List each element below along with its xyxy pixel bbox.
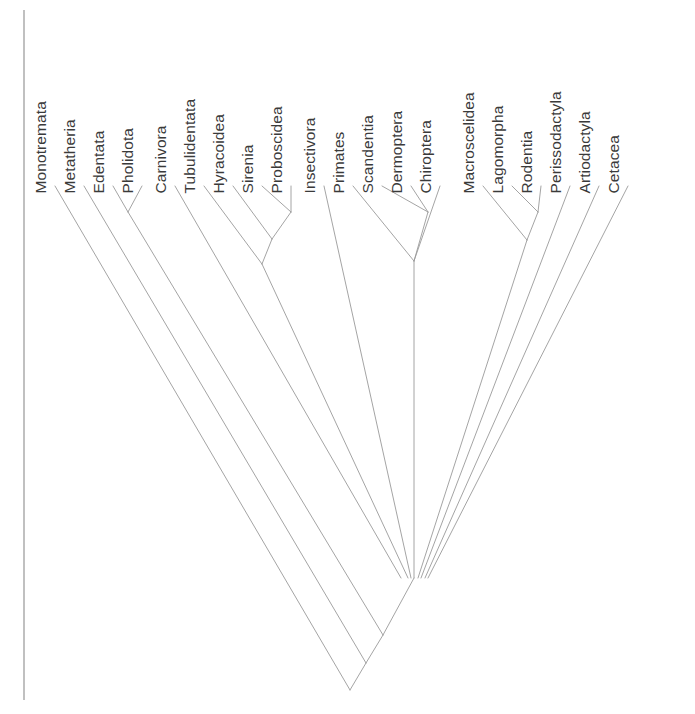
phylogenetic-tree-figure: MonotremataMetatheriaEdentataPholidotaCa… [0, 0, 695, 714]
taxon-label-chiroptera: Chiroptera [418, 120, 434, 193]
taxon-label-rodentia: Rodentia [519, 131, 535, 194]
taxon-label-sirenia: Sirenia [240, 145, 256, 194]
taxon-label-artiodactyla: Artiodactyla [577, 111, 593, 193]
taxon-label-proboscidea: Proboscidea [269, 106, 285, 193]
taxon-label-edentata: Edentata [91, 131, 107, 194]
taxon-label-dermoptera: Dermoptera [389, 111, 405, 194]
taxon-label-primates: Primates [331, 132, 347, 194]
taxon-label-carnivora: Carnivora [153, 125, 169, 193]
taxon-label-metatheria: Metatheria [62, 119, 78, 193]
taxon-label-macroscelidea: Macroscelidea [461, 92, 477, 193]
taxon-label-insectivora: Insectivora [302, 117, 318, 193]
taxon-label-lagomorpha: Lagomorpha [490, 105, 506, 193]
taxon-label-perissodactyla: Perissodactyla [548, 91, 564, 193]
taxon-label-monotremata: Monotremata [33, 101, 49, 193]
taxon-labels-layer: MonotremataMetatheriaEdentataPholidotaCa… [0, 0, 695, 714]
taxon-label-pholidota: Pholidota [120, 128, 136, 194]
taxon-label-scandentia: Scandentia [360, 115, 376, 194]
taxon-label-cetacea: Cetacea [606, 135, 622, 193]
taxon-label-hyracoidea: Hyracoidea [211, 114, 227, 193]
taxon-label-tubulidentata: Tubulidentata [182, 99, 198, 194]
